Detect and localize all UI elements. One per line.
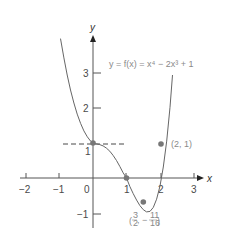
x-tick-label: 3 [191, 184, 197, 195]
point-2-1 [158, 141, 164, 147]
x-tick-label: −1 [53, 184, 65, 195]
y-tick-label: 2 [83, 103, 89, 114]
point-min [141, 199, 147, 205]
x-axis-label: x [206, 173, 213, 184]
x-axis-arrow-icon [197, 175, 204, 181]
point-0-1 [90, 140, 96, 146]
point-label-min: ( 3 2 , − 11 16 ) [129, 210, 160, 228]
y-tick-label: 1 [85, 146, 91, 157]
y-axis-arrow-icon [90, 35, 96, 42]
svg-text:(: ( [129, 216, 132, 226]
svg-text:): ) [157, 216, 160, 226]
svg-text:, −: , − [137, 215, 147, 225]
x-tick-label: 0 [84, 184, 90, 195]
y-tick-label: −1 [77, 209, 89, 220]
function-graph: −2 −1 0 1 2 3 3 2 1 −1 x y y = f(x) = x⁴… [0, 0, 228, 238]
y-axis-label: y [89, 22, 96, 33]
x-tick-label: −2 [19, 184, 31, 195]
point-label-2-1: (2, 1) [171, 139, 192, 149]
equation-label: y = f(x) = x⁴ − 2x³ + 1 [109, 59, 193, 69]
y-tick-label: 3 [83, 68, 89, 79]
point-1-0 [124, 175, 130, 181]
x-ticks [26, 173, 194, 178]
